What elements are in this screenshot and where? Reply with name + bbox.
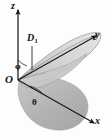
theta-angle-label: θ [32,98,37,107]
figure-container: z y x O φ θ D1 [0,0,111,137]
z-axis-label: z [11,1,15,11]
region-d1-label: D1 [27,33,37,43]
phi-angle-label: φ [15,62,21,71]
y-axis-label: y [95,30,99,40]
origin-label: O [5,74,13,85]
region-d1-subscript: 1 [35,37,38,44]
region-d1-letter: D [27,32,34,43]
x-axis-label: x [95,116,100,126]
